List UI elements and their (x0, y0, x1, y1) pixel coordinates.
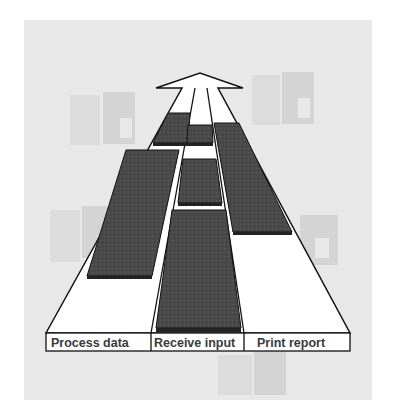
window-logo-icon (70, 92, 135, 145)
lane-label-receive-input: Receive input (154, 336, 236, 350)
window-logo-icon (252, 72, 314, 125)
lane-label-process-data: Process data (51, 336, 130, 350)
lane-label-print-report: Print report (257, 336, 326, 350)
task-block (187, 125, 213, 146)
roadmap-diagram: Process data Receive input Print report (0, 0, 394, 418)
task-block (178, 159, 222, 206)
window-logo-icon (218, 350, 286, 395)
lane-label-bar: Process data Receive input Print report (46, 333, 350, 351)
